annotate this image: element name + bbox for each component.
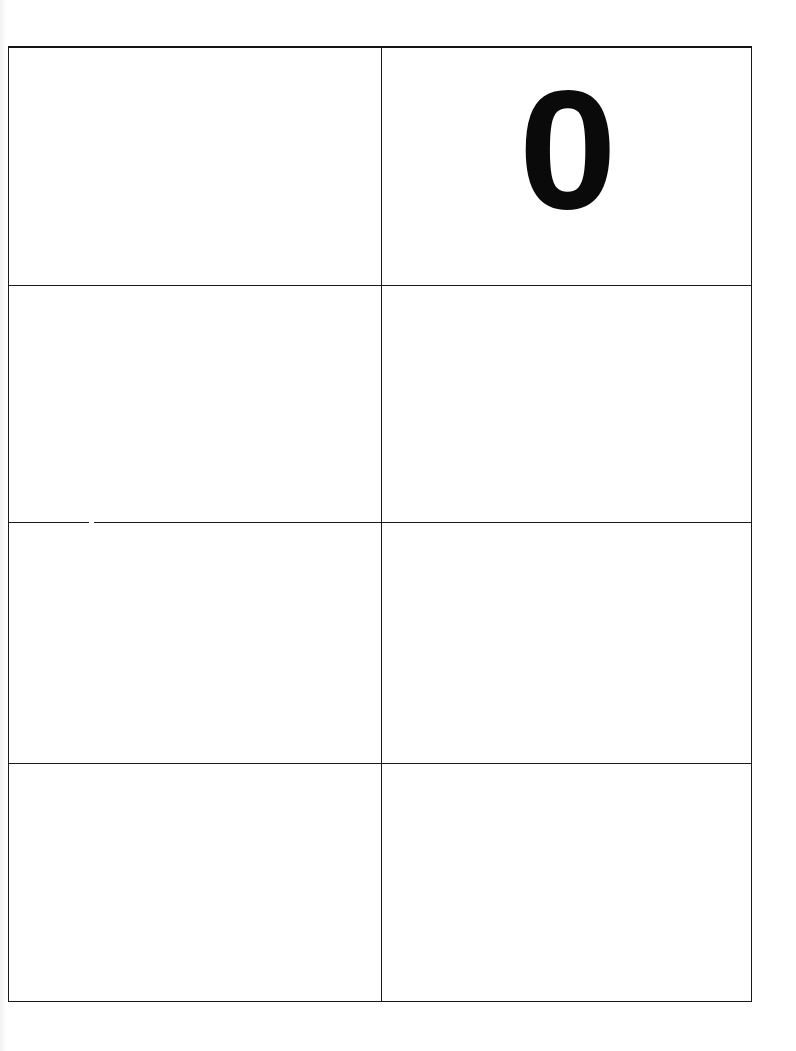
grid-cell-r3-c2 <box>382 523 751 764</box>
grid-cell-r2-c2 <box>382 286 751 523</box>
grid-cell-r4-c1 <box>9 764 382 1001</box>
grid-cell-r1-c2: 0 <box>382 48 751 286</box>
grid-cell-r3-c1 <box>9 523 382 764</box>
grid-cell-r2-c1 <box>9 286 382 523</box>
grid-sheet: 0 <box>8 46 752 1002</box>
grid-cell-r1-c1 <box>9 48 382 286</box>
grid-cell-r4-c2 <box>382 764 751 1001</box>
scan-page-edge <box>0 0 6 1051</box>
large-digit: 0 <box>518 66 616 234</box>
